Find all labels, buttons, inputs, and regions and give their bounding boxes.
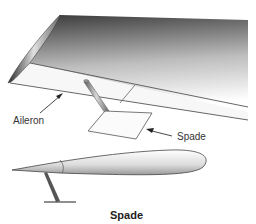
spade-label: Spade [177,132,206,142]
airfoil-cross-section [12,150,206,202]
wing [8,15,248,120]
spade-tab [88,111,152,139]
aileron-label: Aileron [13,116,44,126]
aileron-leader-arrow [40,93,63,113]
diagram-caption: Spade [110,210,143,221]
spade-diagram [0,0,256,224]
spade-leader-arrow [146,128,172,136]
airfoil-spade-strut [44,172,60,202]
